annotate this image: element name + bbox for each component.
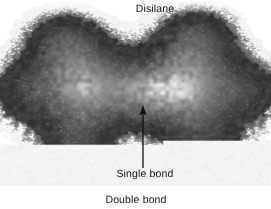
single-bond-leader-arrow-icon	[132, 104, 154, 170]
annotation-label-double-bond: Double bond	[105, 194, 166, 206]
figure-title-label: Disilane	[136, 3, 175, 15]
electron-density-figure: Disilane Single bond Double bond	[0, 0, 271, 209]
annotation-label-single-bond: Single bond	[116, 168, 173, 180]
